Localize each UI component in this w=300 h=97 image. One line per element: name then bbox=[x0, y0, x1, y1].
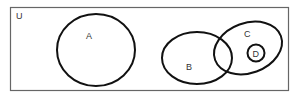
set-c-label: C bbox=[244, 29, 251, 39]
universe-label: U bbox=[16, 11, 23, 21]
set-a-label: A bbox=[86, 31, 92, 41]
set-a-ellipse bbox=[57, 14, 135, 86]
set-b-label: B bbox=[186, 62, 192, 72]
set-b-ellipse bbox=[162, 32, 232, 84]
venn-diagram: U A B C D bbox=[0, 0, 300, 97]
set-d-label: D bbox=[253, 49, 260, 59]
universe-frame bbox=[11, 8, 289, 91]
